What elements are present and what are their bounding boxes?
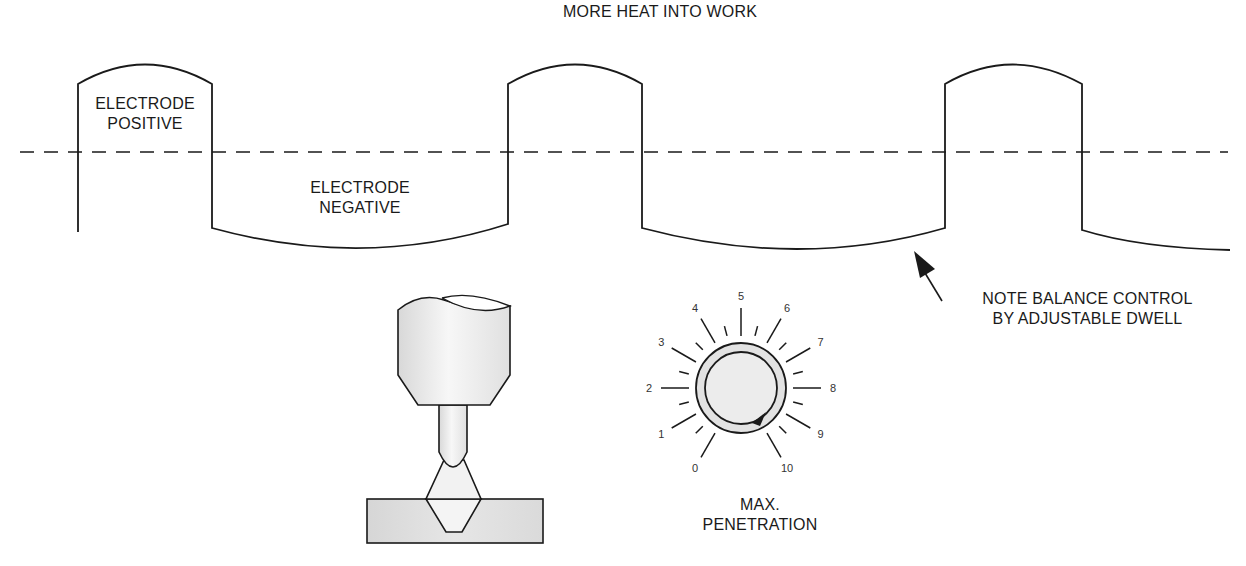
dial-minor-tick: [696, 343, 703, 350]
negative-line-2: NEGATIVE: [295, 198, 425, 218]
dial-major-tick: [672, 414, 696, 428]
electrode-positive-label: ELECTRODE POSITIVE: [80, 94, 210, 134]
positive-line-1: ELECTRODE: [80, 94, 210, 114]
dial-knob[interactable]: [705, 352, 777, 424]
balance-note: NOTE BALANCE CONTROL BY ADJUSTABLE DWELL: [950, 289, 1225, 329]
balance-dial[interactable]: 012345678910: [646, 290, 836, 474]
dial-number: 7: [818, 336, 824, 348]
dial-number: 5: [738, 290, 744, 302]
dial-caption: MAX. PENETRATION: [680, 495, 840, 535]
dial-number: 9: [818, 428, 824, 440]
diagram-title: MORE HEAT INTO WORK: [490, 2, 830, 22]
dial-minor-tick: [755, 326, 758, 336]
dial-major-tick: [767, 433, 781, 457]
dial-major-tick: [672, 348, 696, 362]
positive-line-2: POSITIVE: [80, 114, 210, 134]
dial-minor-tick: [696, 426, 703, 433]
dial-number: 1: [658, 428, 664, 440]
dial-number: 3: [658, 336, 664, 348]
ac-waveform: [78, 65, 1230, 251]
note-line-1: NOTE BALANCE CONTROL: [950, 289, 1225, 309]
dial-number: 10: [781, 462, 793, 474]
dial-number: 0: [692, 462, 698, 474]
dial-number: 2: [646, 382, 652, 394]
dial-number: 4: [692, 302, 698, 314]
arrow-head-icon: [914, 251, 935, 278]
dial-minor-tick: [679, 371, 689, 374]
dial-minor-tick: [793, 402, 803, 405]
dial-major-tick: [701, 433, 715, 457]
dial-number: 8: [830, 382, 836, 394]
caption-line-2: PENETRATION: [680, 515, 840, 535]
dial-minor-tick: [793, 371, 803, 374]
dial-major-tick: [701, 319, 715, 343]
dial-major-tick: [786, 348, 810, 362]
dial-minor-tick: [679, 402, 689, 405]
dial-major-tick: [767, 319, 781, 343]
ac-balance-diagram: 012345678910: [0, 0, 1246, 566]
dial-major-tick: [786, 414, 810, 428]
caption-line-1: MAX.: [680, 495, 840, 515]
dial-minor-tick: [724, 326, 727, 336]
dial-minor-tick: [779, 343, 786, 350]
electrode-negative-label: ELECTRODE NEGATIVE: [295, 178, 425, 218]
dial-number: 6: [784, 302, 790, 314]
negative-line-1: ELECTRODE: [295, 178, 425, 198]
note-line-2: BY ADJUSTABLE DWELL: [950, 309, 1225, 329]
torch-illustration: [367, 295, 543, 543]
dial-minor-tick: [779, 426, 786, 433]
